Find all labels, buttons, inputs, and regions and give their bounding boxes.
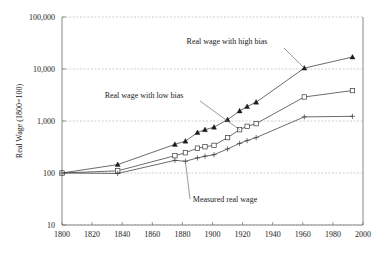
annotation-leader-2	[185, 161, 190, 199]
x-tick-label-1840: 1840	[114, 230, 130, 239]
marker-plus	[202, 154, 207, 159]
marker-plus	[254, 135, 259, 140]
y-tick-label-10000: 10,000	[33, 65, 55, 74]
x-tick-label-2000: 2000	[355, 230, 371, 239]
marker-plus	[195, 155, 200, 160]
marker-square	[212, 143, 216, 147]
marker-square	[183, 151, 187, 155]
series-0	[60, 54, 355, 175]
marker-plus	[172, 158, 177, 163]
line-chart: 1800182018401860188019001920194019601980…	[0, 0, 385, 254]
data-series-group	[59, 54, 355, 176]
marker-plus	[245, 138, 250, 143]
gridlines-group	[62, 17, 363, 225]
y-tick-label-100: 100	[43, 169, 55, 178]
y-tick-labels: 101001,00010,000100,000	[29, 13, 55, 230]
x-tick-label-1800: 1800	[54, 230, 70, 239]
annotation-label-1: Real wage with low bias	[105, 91, 184, 100]
annotation-label-0: Real wage with high bias	[187, 37, 268, 46]
y-axis-title: Real Wage (1800=100)	[15, 83, 24, 158]
y-tick-label-1000: 1,000	[37, 117, 55, 126]
marker-triangle	[350, 54, 355, 59]
annotation-label-2: Measured real wage	[193, 195, 258, 204]
y-tick-label-100000: 100,000	[29, 13, 55, 22]
y-tick-marks	[62, 17, 66, 225]
marker-square	[195, 146, 199, 150]
marker-plus	[211, 152, 216, 157]
marker-square	[225, 135, 229, 139]
marker-triangle	[237, 108, 242, 113]
marker-square	[245, 124, 249, 128]
marker-plus	[237, 141, 242, 146]
marker-square	[203, 145, 207, 149]
chart-figure: 1800182018401860188019001920194019601980…	[0, 0, 385, 254]
x-tick-label-1940: 1940	[265, 230, 281, 239]
y-axis-title-text: Real Wage (1800=100)	[15, 83, 24, 158]
marker-square	[350, 88, 354, 92]
marker-plus	[302, 114, 307, 119]
marker-plus	[225, 146, 230, 151]
x-tick-label-1880: 1880	[174, 230, 190, 239]
marker-triangle	[183, 139, 188, 144]
x-tick-label-1980: 1980	[325, 230, 341, 239]
x-tick-labels: 1800182018401860188019001920194019601980…	[54, 230, 371, 239]
marker-square	[302, 95, 306, 99]
marker-triangle	[245, 104, 250, 109]
x-tick-label-1920: 1920	[235, 230, 251, 239]
marker-square	[173, 154, 177, 158]
y-tick-label-10: 10	[47, 221, 55, 230]
x-tick-label-1960: 1960	[295, 230, 311, 239]
annotation-leader-0	[284, 48, 304, 68]
marker-square	[254, 121, 258, 125]
marker-triangle	[212, 125, 217, 130]
x-tick-label-1900: 1900	[205, 230, 221, 239]
annotations-group: Real wage with high biasReal wage with l…	[105, 37, 305, 204]
x-tick-label-1820: 1820	[84, 230, 100, 239]
x-tick-label-1860: 1860	[144, 230, 160, 239]
marker-triangle	[254, 100, 259, 105]
marker-plus	[350, 114, 355, 119]
